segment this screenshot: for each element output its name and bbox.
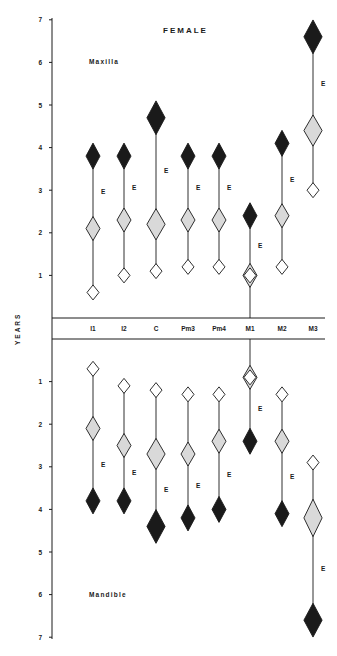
completion-diamond-m1 xyxy=(243,203,257,229)
initial-diamond-c xyxy=(150,264,162,279)
completion-diamond-m3 xyxy=(304,20,322,54)
y-tick-label: 7 xyxy=(38,16,42,23)
mean-diamond-pm4 xyxy=(212,208,226,232)
mean-diamond-m3 xyxy=(304,499,322,536)
y-tick-label: 7 xyxy=(38,634,42,641)
category-label-i1: I1 xyxy=(90,325,96,332)
eruption-marker: E xyxy=(290,176,295,183)
initial-diamond-pm4 xyxy=(213,259,225,274)
eruption-marker: E xyxy=(101,461,106,468)
completion-diamond-c xyxy=(147,510,165,544)
y-axis-label: YEARS xyxy=(14,313,21,345)
eruption-marker: E xyxy=(227,471,232,478)
mean-diamond-m3 xyxy=(304,115,322,146)
mean-diamond-pm4 xyxy=(212,429,226,453)
maxilla-panel: EEEEEEEE xyxy=(86,20,326,318)
completion-diamond-m3 xyxy=(304,603,322,637)
mean-diamond-m2 xyxy=(275,429,289,453)
y-tick-label: 4 xyxy=(38,506,42,513)
initial-diamond-m2 xyxy=(276,259,288,274)
completion-diamond-pm3 xyxy=(181,505,195,531)
mean-diamond-i1 xyxy=(86,217,100,241)
y-tick-label: 3 xyxy=(38,463,42,470)
maxilla-label: Maxilla xyxy=(89,58,119,65)
completion-diamond-i1 xyxy=(86,488,100,514)
initial-diamond-i2 xyxy=(118,268,130,283)
chart-title: FEMALE xyxy=(163,26,208,35)
eruption-marker: E xyxy=(290,473,295,480)
mean-diamond-pm3 xyxy=(181,442,195,466)
category-label-m2: M2 xyxy=(277,325,286,332)
initial-diamond-i1 xyxy=(87,361,99,376)
axes: 12345671234567I1I2CPm3Pm4M1M2M3 xyxy=(38,16,325,640)
completion-diamond-pm3 xyxy=(181,143,195,169)
y-tick-label: 3 xyxy=(38,187,42,194)
category-label-pm4: Pm4 xyxy=(212,325,226,332)
mean-diamond-c xyxy=(147,438,165,469)
eruption-marker: E xyxy=(101,188,106,195)
mean-diamond-i1 xyxy=(86,416,100,440)
eruption-marker: E xyxy=(196,184,201,191)
eruption-marker: E xyxy=(321,565,326,572)
completion-diamond-m2 xyxy=(275,130,289,156)
mean-diamond-c xyxy=(147,209,165,240)
completion-diamond-i2 xyxy=(117,488,131,514)
category-label-pm3: Pm3 xyxy=(181,325,195,332)
mean-diamond-pm3 xyxy=(181,208,195,232)
eruption-marker: E xyxy=(164,486,169,493)
eruption-marker: E xyxy=(258,405,263,412)
eruption-marker: E xyxy=(132,469,137,476)
initial-diamond-pm4 xyxy=(213,387,225,402)
mandible-label: Mandible xyxy=(89,591,127,598)
initial-diamond-c xyxy=(150,383,162,398)
completion-diamond-i2 xyxy=(117,143,131,169)
initial-diamond-m3 xyxy=(307,455,319,470)
completion-diamond-m2 xyxy=(275,501,289,527)
mean-diamond-i2 xyxy=(117,208,131,232)
initial-diamond-m2 xyxy=(276,387,288,402)
y-tick-label: 6 xyxy=(38,59,42,66)
completion-diamond-m1 xyxy=(243,428,257,454)
initial-diamond-i1 xyxy=(87,285,99,300)
y-tick-label: 2 xyxy=(38,229,42,236)
eruption-marker: E xyxy=(321,80,326,87)
completion-diamond-i1 xyxy=(86,143,100,169)
eruption-marker: E xyxy=(164,167,169,174)
category-label-c: C xyxy=(154,325,159,332)
category-label-m3: M3 xyxy=(308,325,317,332)
category-label-i2: I2 xyxy=(121,325,127,332)
completion-diamond-c xyxy=(147,101,165,135)
initial-diamond-m3 xyxy=(307,183,319,198)
y-tick-label: 5 xyxy=(38,549,42,556)
initial-diamond-pm3 xyxy=(182,387,194,402)
eruption-marker: E xyxy=(132,184,137,191)
y-tick-label: 4 xyxy=(38,144,42,151)
mean-diamond-m2 xyxy=(275,204,289,228)
eruption-marker: E xyxy=(196,482,201,489)
y-tick-label: 5 xyxy=(38,102,42,109)
y-tick-label: 1 xyxy=(38,378,42,385)
tooth-development-chart: 12345671234567I1I2CPm3Pm4M1M2M3 EEEEEEEE… xyxy=(0,0,337,656)
y-tick-label: 1 xyxy=(38,272,42,279)
eruption-marker: E xyxy=(258,242,263,249)
eruption-marker: E xyxy=(227,184,232,191)
initial-diamond-pm3 xyxy=(182,259,194,274)
completion-diamond-pm4 xyxy=(212,143,226,169)
category-label-m1: M1 xyxy=(245,325,254,332)
y-tick-label: 2 xyxy=(38,421,42,428)
initial-diamond-i2 xyxy=(118,378,130,393)
y-tick-label: 6 xyxy=(38,591,42,598)
completion-diamond-pm4 xyxy=(212,496,226,522)
mean-diamond-i2 xyxy=(117,434,131,458)
